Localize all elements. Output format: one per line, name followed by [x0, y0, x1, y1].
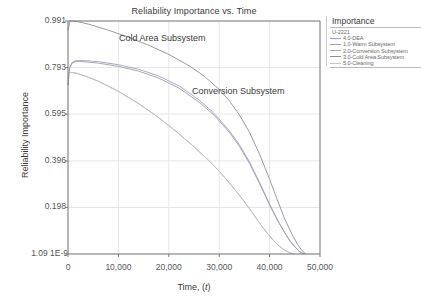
legend-color-swatch: [330, 50, 341, 51]
legend-entry-label: 5.0-Cleaning: [343, 60, 374, 66]
reliability-importance-chart: Reliability Importance vs. Time Reliabil…: [0, 0, 421, 303]
legend-left-divider: [326, 16, 327, 66]
axis-lines: [68, 21, 320, 254]
series-line: [68, 21, 306, 254]
series-line: [68, 72, 294, 254]
annotation-cold-area: Cold Area Subsystem: [119, 33, 206, 43]
legend-color-swatch: [330, 44, 341, 45]
legend-entry[interactable]: 5.0-Cleaning: [330, 60, 421, 66]
legend-color-swatch: [330, 38, 341, 39]
legend-entries: 4.0-DEA1.0-Warm Subsystem2.0-Conversion …: [330, 35, 421, 66]
series-line: [68, 72, 294, 254]
legend-color-swatch: [330, 56, 341, 57]
legend-color-swatch: [330, 63, 341, 64]
legend-top-divider: [330, 27, 421, 28]
legend-title: Importance: [330, 16, 421, 26]
legend: Importance U-2221 4.0-DEA1.0-Warm Subsys…: [330, 16, 421, 68]
grid-lines: [68, 21, 320, 254]
annotation-conversion: Conversion Subsystem: [192, 86, 285, 96]
legend-bottom-divider: [330, 67, 421, 68]
axis-ticks: [65, 21, 320, 257]
series-lines: [68, 21, 306, 254]
